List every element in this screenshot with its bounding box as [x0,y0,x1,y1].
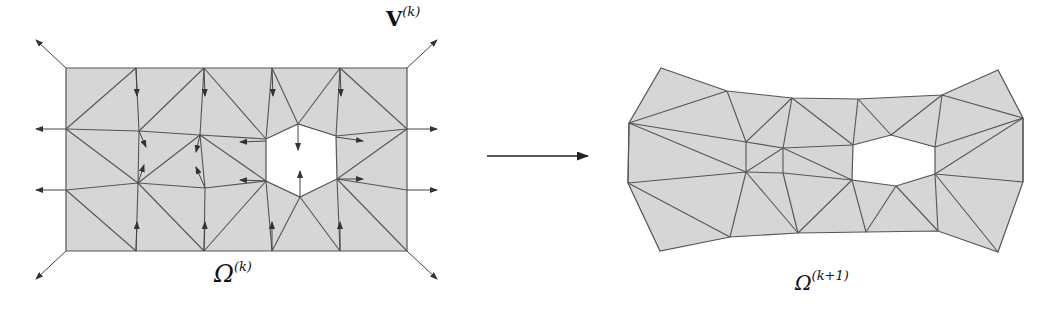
omega-superscript: (k) [234,259,252,274]
velocity-superscript: (k) [402,4,420,19]
vector-arrow-icon [36,251,66,279]
domain-k-label: Ω(k) [214,260,252,288]
vector-arrow-icon [36,40,66,68]
omega-symbol: Ω [214,260,234,288]
domain-k-plus-1-label: Ω(k+1) [795,270,849,295]
omega-superscript: (k+1) [812,268,849,283]
velocity-field-label: V(k) [386,6,420,31]
mesh-omega-k [36,40,437,279]
mesh-omega-k-plus-1 [628,68,1023,252]
domain-fill [66,68,407,251]
omega-symbol: Ω [795,271,812,295]
vector-arrow-icon [407,40,437,68]
shape-optimization-diagram [0,0,1050,316]
vector-arrow-icon [407,251,437,279]
velocity-symbol: V [386,6,402,31]
domain-fill [628,68,1023,252]
